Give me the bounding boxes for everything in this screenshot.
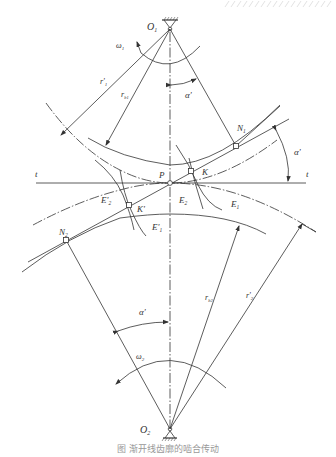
label-alpha-bottom: α' bbox=[139, 307, 147, 317]
radius-r2-pitch-line bbox=[170, 224, 302, 429]
label-p: P bbox=[158, 170, 165, 180]
o2-n2-line bbox=[66, 240, 170, 429]
gear-meshing-diagram: O1 O2 ω1 ω2 r'1 rb1 r'2 rb2 α' α' α' N1 … bbox=[0, 0, 336, 457]
pitch-circle-2-ext bbox=[302, 224, 316, 232]
o1-n1-line bbox=[170, 29, 236, 146]
pivot-support-o2 bbox=[162, 427, 177, 441]
label-t-right: t bbox=[306, 169, 309, 179]
label-n1: N1 bbox=[236, 123, 246, 134]
label-k-prime: K' bbox=[136, 204, 146, 214]
label-r1-pitch: r'1 bbox=[100, 77, 107, 87]
alpha-right-arc bbox=[276, 130, 289, 181]
label-k: K bbox=[201, 167, 209, 177]
label-e2-prime: E'2 bbox=[100, 195, 111, 206]
figure-caption: 图 渐开线齿廓的啮合传动 bbox=[117, 443, 219, 454]
point-n2 bbox=[64, 238, 69, 243]
label-n2: N2 bbox=[58, 227, 68, 238]
point-p bbox=[168, 181, 173, 186]
point-k bbox=[189, 169, 194, 174]
label-o1: O1 bbox=[147, 21, 157, 33]
base-circle-2 bbox=[22, 214, 266, 272]
label-e2: E2 bbox=[178, 195, 188, 206]
omega1-rotation-arc bbox=[137, 42, 200, 64]
label-omega2: ω2 bbox=[136, 352, 145, 362]
label-e1: E1 bbox=[230, 199, 240, 210]
background-hatch bbox=[225, 1, 331, 7]
label-rb2: rb2 bbox=[205, 293, 213, 303]
label-alpha-right: α' bbox=[294, 147, 302, 157]
base-circle-1 bbox=[88, 105, 280, 165]
alpha-top-arc bbox=[171, 79, 196, 85]
omega2-rotation-arc bbox=[116, 360, 226, 388]
label-r2-pitch: r'2 bbox=[246, 291, 254, 301]
label-omega1: ω1 bbox=[116, 41, 124, 51]
pivot-support-o1 bbox=[162, 17, 178, 31]
label-rb1: rb1 bbox=[121, 90, 129, 100]
label-e1-prime: E'1 bbox=[151, 222, 162, 233]
label-alpha-top: α' bbox=[185, 90, 193, 100]
alpha-bottom-arc bbox=[118, 322, 168, 331]
label-o2: O2 bbox=[140, 424, 150, 436]
involute-e2 bbox=[189, 158, 203, 209]
pitch-circle-2 bbox=[33, 183, 316, 232]
label-t-left: t bbox=[35, 169, 38, 179]
radius-rb2-line bbox=[170, 226, 239, 429]
point-k-prime bbox=[127, 203, 132, 208]
point-n1 bbox=[234, 144, 239, 149]
